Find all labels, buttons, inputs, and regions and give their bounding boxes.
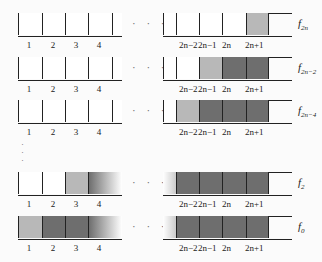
array-cell <box>222 172 246 194</box>
index-label: 2n−2 <box>179 84 198 94</box>
array-cell <box>88 172 122 194</box>
array-cell <box>18 216 42 238</box>
index-label: 2n−1 <box>198 199 217 209</box>
array-cell <box>18 100 42 122</box>
array-cell <box>176 13 199 35</box>
array-cell <box>88 13 112 35</box>
array-row: · · ·f2n−4 <box>0 100 322 124</box>
array-cell <box>176 57 199 79</box>
index-label: 2 <box>41 40 65 50</box>
index-label: 2n+1 <box>245 127 264 137</box>
index-label: 3 <box>64 199 88 209</box>
array-cell <box>88 216 122 238</box>
array-cell <box>163 57 176 79</box>
index-label: 2n+1 <box>245 243 264 253</box>
index-label: 2 <box>41 243 65 253</box>
array-cell <box>246 216 269 238</box>
array-cell <box>88 100 112 122</box>
array-cell <box>18 57 42 79</box>
index-label: 2n−1 <box>198 127 217 137</box>
array-cell <box>222 13 246 35</box>
vertical-ellipsis: ··· <box>21 140 24 164</box>
array-cell <box>176 216 199 238</box>
index-label: 4 <box>87 243 111 253</box>
array-cell <box>18 13 42 35</box>
function-label: f2n−2 <box>298 61 316 76</box>
index-label: 2n−1 <box>198 243 217 253</box>
array-cell <box>176 172 199 194</box>
array-cell <box>246 57 269 79</box>
index-label: 2n−1 <box>198 40 217 50</box>
index-label: 1 <box>17 243 41 253</box>
index-label: 3 <box>64 243 88 253</box>
index-label: 2 <box>41 199 65 209</box>
array-row: · · ·f2n−2 <box>0 57 322 81</box>
array-cell <box>65 13 88 35</box>
array-cell <box>65 172 88 194</box>
array-cell <box>163 100 176 122</box>
index-label: 2n+1 <box>245 40 264 50</box>
index-label: 4 <box>87 127 111 137</box>
function-label: f2n−4 <box>298 104 316 119</box>
index-label: 2n <box>222 199 231 209</box>
index-label: 1 <box>17 127 41 137</box>
index-label: 2n <box>222 243 231 253</box>
array-cell <box>42 13 65 35</box>
index-label: 2n−2 <box>179 199 198 209</box>
index-label: 2n−2 <box>179 243 198 253</box>
array-cell <box>65 57 88 79</box>
index-label: 2n <box>222 40 231 50</box>
array-cell <box>112 13 122 35</box>
array-cell <box>222 100 246 122</box>
index-label: 2n−2 <box>179 127 198 137</box>
index-label: 3 <box>64 40 88 50</box>
array-cell <box>199 13 222 35</box>
index-label: 2n+1 <box>245 199 264 209</box>
array-row: · · ·f2 <box>0 172 322 196</box>
function-label: f2n <box>298 17 308 32</box>
array-cell <box>199 100 222 122</box>
index-label: 3 <box>64 84 88 94</box>
array-cell <box>246 13 269 35</box>
array-cell <box>112 100 122 122</box>
index-label: 1 <box>17 199 41 209</box>
array-cell <box>65 100 88 122</box>
array-cell <box>65 216 88 238</box>
array-cell <box>42 57 65 79</box>
index-label: 4 <box>87 40 111 50</box>
array-cell <box>199 216 222 238</box>
array-cell <box>199 57 222 79</box>
index-label: 2n <box>222 84 231 94</box>
function-label: f0 <box>298 220 305 235</box>
index-label: 2n−1 <box>198 84 217 94</box>
array-cell <box>42 172 65 194</box>
array-cell <box>42 216 65 238</box>
function-label: f2 <box>298 176 305 191</box>
diagram-canvas: · · ·f2n12342n−22n−12n2n+1· · ·f2n−21234… <box>0 0 322 262</box>
array-row: · · ·f2n <box>0 13 322 37</box>
index-label: 4 <box>87 199 111 209</box>
array-cell <box>222 216 246 238</box>
index-label: 2 <box>41 127 65 137</box>
index-label: 2n+1 <box>245 84 264 94</box>
array-cell <box>246 100 269 122</box>
array-cell <box>112 57 122 79</box>
array-cell <box>18 172 42 194</box>
array-cell <box>222 57 246 79</box>
array-cell <box>88 57 112 79</box>
array-row: · · ·f0 <box>0 216 322 240</box>
index-label: 1 <box>17 84 41 94</box>
index-label: 3 <box>64 127 88 137</box>
array-cell <box>176 100 199 122</box>
index-label: 2n−2 <box>179 40 198 50</box>
index-label: 4 <box>87 84 111 94</box>
index-label: 2 <box>41 84 65 94</box>
array-cell <box>163 13 176 35</box>
index-label: 1 <box>17 40 41 50</box>
array-cell <box>42 100 65 122</box>
array-cell <box>246 172 269 194</box>
array-cell <box>199 172 222 194</box>
index-label: 2n <box>222 127 231 137</box>
